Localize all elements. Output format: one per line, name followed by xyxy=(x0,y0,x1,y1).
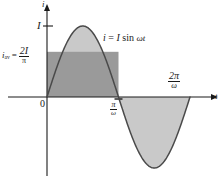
equation-label: i = I sin ωt xyxy=(103,33,145,43)
equation-omega-t: ωt xyxy=(136,33,145,43)
equation-equals: = xyxy=(108,32,114,43)
equation-i: i xyxy=(103,32,106,43)
y-axis-label: i xyxy=(42,0,45,9)
iav-fraction: 2I π xyxy=(19,46,29,65)
iav-denominator: π xyxy=(19,56,29,65)
pi-over-omega-denominator: ω xyxy=(110,109,117,117)
equation-sin: sin xyxy=(122,32,134,43)
average-current-label: iav = 2I π xyxy=(2,46,29,65)
iav-equals: = xyxy=(12,51,17,60)
pi-over-omega-numerator: π xyxy=(110,101,117,109)
iav-numerator: 2I xyxy=(19,46,29,56)
sine-wave-average-current-figure: i t I 0 iav = 2I π i = I sin ωt π ω 2π xyxy=(0,0,224,181)
chart-canvas xyxy=(0,0,224,181)
pi-over-omega-fraction: π ω xyxy=(110,101,117,117)
iav-subscript: av xyxy=(5,54,10,60)
two-pi-over-omega-fraction: 2π ω xyxy=(168,71,180,90)
two-pi-over-omega-denominator: ω xyxy=(168,81,180,90)
two-pi-over-omega-label: 2π ω xyxy=(168,71,180,90)
amplitude-label: I xyxy=(37,20,41,31)
origin-label: 0 xyxy=(40,99,45,109)
pi-over-omega-label: π ω xyxy=(110,101,117,117)
equation-amplitude: I xyxy=(116,32,119,43)
iav-symbol: iav xyxy=(2,51,10,61)
two-pi-over-omega-numerator: 2π xyxy=(168,71,180,81)
average-value-rectangle xyxy=(47,52,119,97)
negative-lobe-fill xyxy=(119,97,191,168)
x-axis-label: t xyxy=(215,92,218,101)
